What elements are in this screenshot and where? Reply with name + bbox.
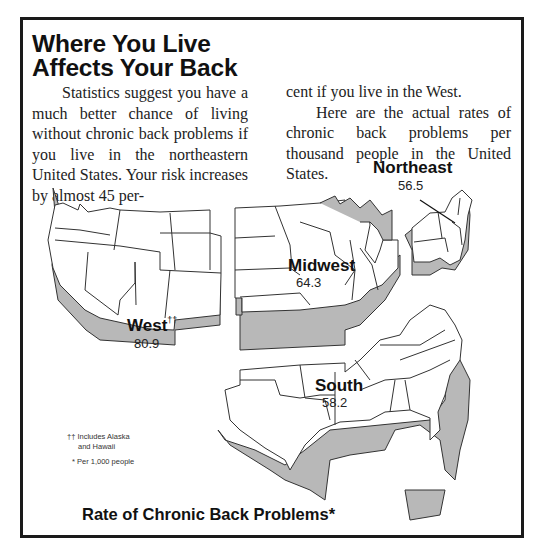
south-label: South — [315, 376, 363, 396]
northeast-value: 56.5 — [398, 178, 423, 193]
footnote-alaska-hawaii: †† Includes Alaska and Hawaii — [67, 432, 130, 451]
south-value: 58.2 — [322, 395, 347, 410]
west-value: 80.9 — [134, 336, 159, 351]
footnote-per-thousand: * Per 1,000 people — [72, 457, 134, 467]
northeast-region — [405, 190, 472, 275]
us-regions-map — [0, 0, 543, 558]
west-label: West†† — [127, 315, 177, 336]
midwest-value: 64.3 — [296, 275, 321, 290]
west-footnote-marker: †† — [167, 315, 177, 325]
chart-caption: Rate of Chronic Back Problems* — [82, 505, 335, 524]
midwest-label: Midwest — [288, 256, 355, 276]
northeast-label: Northeast — [373, 158, 452, 178]
